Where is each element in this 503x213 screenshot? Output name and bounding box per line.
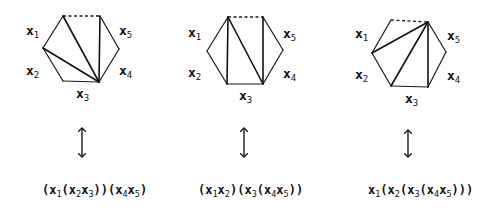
diagonal [63, 16, 99, 82]
edge-x4 [99, 49, 119, 82]
hexagon-2 [207, 17, 283, 84]
edge-x1 [207, 17, 228, 51]
label-x5: x5 [283, 26, 296, 43]
diagonal [227, 17, 228, 84]
edge-x2 [372, 53, 391, 86]
label-x5: x5 [447, 28, 460, 45]
triangulation-figure: x1 x2 x3 x4 x5 (x1(x2x3))(x4x5) x1 x2 x3… [0, 0, 503, 213]
diagonal [99, 16, 100, 82]
panel-2: x1 x2 x3 x4 x5 (x1x2)(x3(x4x5)) [188, 17, 303, 199]
formula-3: x1(x2(x3(x4x5))) [368, 183, 473, 199]
label-x1: x1 [355, 26, 368, 43]
label-x1: x1 [188, 25, 201, 42]
formula-2: (x1x2)(x3(x4x5)) [198, 183, 303, 199]
edge-x1 [43, 16, 63, 48]
edge-x5 [428, 22, 446, 52]
label-x2: x2 [26, 63, 39, 80]
label-x1: x1 [26, 23, 39, 40]
label-x2: x2 [188, 65, 201, 82]
hexagon-1 [43, 16, 119, 82]
edge-x4 [263, 50, 283, 84]
label-x3: x3 [405, 91, 418, 108]
edge-x5 [100, 16, 119, 49]
hexagon-3 [372, 20, 446, 87]
edge-x2 [43, 48, 63, 81]
label-x5: x5 [119, 23, 132, 40]
panel-1: x1 x2 x3 x4 x5 (x1(x2x3))(x4x5) [26, 16, 147, 199]
root-edge-dashed [391, 20, 428, 22]
formula-1: (x1(x2x3))(x4x5) [42, 183, 147, 199]
label-x4: x4 [119, 63, 132, 80]
edge-x3 [391, 86, 428, 87]
edge-x4 [428, 52, 446, 87]
diagonal [228, 17, 263, 84]
label-x4: x4 [447, 68, 460, 85]
label-x3: x3 [239, 88, 252, 105]
edge-x2 [207, 51, 227, 84]
label-x4: x4 [283, 66, 296, 83]
edge-x3 [63, 81, 99, 82]
label-x2: x2 [355, 67, 368, 84]
edge-x5 [263, 17, 283, 50]
panel-3: x1 x2 x3 x4 x5 x1(x2(x3(x4x5))) [355, 20, 473, 199]
label-x3: x3 [76, 86, 89, 103]
